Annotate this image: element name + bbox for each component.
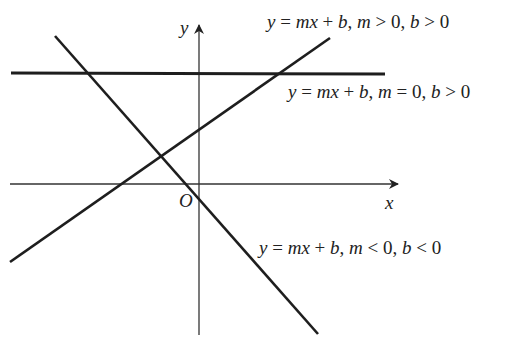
label-positive-slope: y = mx + b, m > 0, b > 0: [267, 12, 449, 31]
x-axis-label: x: [385, 193, 393, 212]
y-axis-label: y: [180, 18, 188, 37]
label-zero-slope: y = mx + b, m = 0, b > 0: [288, 82, 470, 101]
diagram-canvas: [0, 0, 515, 345]
line-positive-slope: [10, 38, 330, 262]
origin-label: O: [179, 191, 193, 210]
line-zero-slope: [11, 73, 385, 74]
label-negative-slope: y = mx + b, m < 0, b < 0: [259, 238, 441, 257]
line-negative-slope: [55, 36, 318, 334]
coordinate-diagram: y x O y = mx + b, m > 0, b > 0 y = mx + …: [0, 0, 515, 345]
